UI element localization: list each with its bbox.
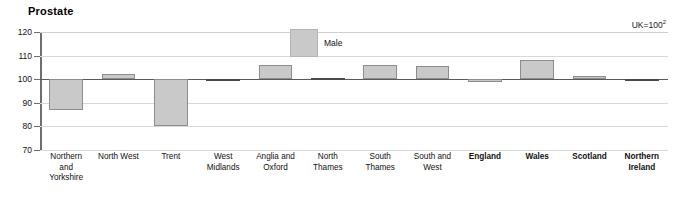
bar[interactable] (468, 79, 501, 82)
bar[interactable] (573, 76, 606, 79)
bar-slot (354, 32, 406, 150)
bar-slot (92, 32, 144, 150)
y-tick-label-110: 110 (18, 51, 32, 61)
bar-slot (511, 32, 563, 150)
x-axis-label: Scotland (563, 152, 615, 163)
x-axis-label: NorthThames (302, 152, 354, 173)
bar[interactable] (102, 74, 135, 79)
bar[interactable] (625, 79, 658, 81)
x-axis-label: North West (92, 152, 144, 163)
bar-slot (145, 32, 197, 150)
gridline-70 (40, 150, 668, 151)
bar-slot (197, 32, 249, 150)
bar[interactable] (49, 79, 82, 110)
footnote-marker: 2 (663, 19, 666, 25)
y-tick-label-80: 80 (23, 121, 32, 131)
bar-slot (406, 32, 458, 150)
y-tick-label-90: 90 (23, 98, 32, 108)
bar-series-male (40, 32, 668, 150)
x-axis-label: Anglia andOxford (249, 152, 301, 173)
bar-slot (616, 32, 668, 150)
chart-container: Prostate UK=1002 708090100110120 Male No… (0, 0, 674, 200)
x-axis-label: SouthThames (354, 152, 406, 173)
bar[interactable] (311, 78, 344, 80)
uk-baseline-text: UK=100 (632, 20, 663, 30)
y-tick-label-100: 100 (18, 74, 32, 84)
bar[interactable] (259, 65, 292, 80)
x-axis-label: Trent (145, 152, 197, 163)
x-axis-label: England (459, 152, 511, 163)
bar[interactable] (154, 79, 187, 126)
y-tick-label-70: 70 (23, 145, 32, 155)
legend-swatch-male (290, 29, 318, 57)
y-tick-label-120: 120 (18, 27, 32, 37)
chart-legend: Male (290, 29, 342, 57)
legend-label-male: Male (324, 38, 342, 48)
x-axis-categories: NorthernandYorkshireNorth WestTrentWestM… (40, 152, 668, 196)
uk-baseline-note: UK=1002 (632, 19, 666, 30)
x-axis-label: Wales (511, 152, 563, 163)
x-axis-label: NorthernIreland (616, 152, 668, 173)
plot-area: 708090100110120 (40, 32, 668, 150)
page-title: Prostate (28, 5, 74, 17)
x-axis-label: WestMidlands (197, 152, 249, 173)
x-axis-label: NorthernandYorkshire (40, 152, 92, 184)
bar[interactable] (520, 60, 553, 79)
bar[interactable] (416, 66, 449, 79)
x-axis-label: South andWest (406, 152, 458, 173)
bar-slot (459, 32, 511, 150)
bar-slot (40, 32, 92, 150)
bar[interactable] (206, 79, 239, 81)
y-tick-70 (34, 150, 40, 151)
bar-slot (563, 32, 615, 150)
bar[interactable] (363, 65, 396, 80)
